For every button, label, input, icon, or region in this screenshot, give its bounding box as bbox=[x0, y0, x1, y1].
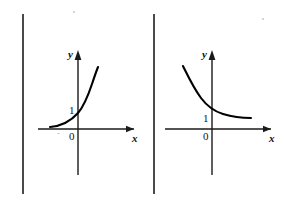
right-y-intercept-label: 1 bbox=[203, 113, 209, 124]
left-y-axis-arrow bbox=[75, 50, 82, 60]
left-panel: y x 0 1 bbox=[24, 0, 152, 205]
right-x-axis-label: x bbox=[269, 133, 275, 144]
right-exponential-curve bbox=[183, 66, 251, 118]
left-y-intercept-label: 1 bbox=[69, 105, 75, 116]
left-origin-label: 0 bbox=[69, 131, 75, 142]
right-y-axis-label: y bbox=[202, 49, 207, 60]
right-panel: y x 0 1 bbox=[155, 0, 286, 205]
right-origin-label: 0 bbox=[203, 131, 209, 142]
right-graph-svg bbox=[155, 0, 286, 205]
right-y-axis-arrow bbox=[209, 50, 216, 60]
exponential-graphs-figure: y x 0 1 y x 0 1 bbox=[0, 0, 286, 205]
left-exponential-curve bbox=[50, 67, 98, 127]
left-graph-svg bbox=[24, 0, 152, 205]
left-x-axis-label: x bbox=[132, 133, 138, 144]
left-y-axis-label: y bbox=[68, 49, 73, 60]
